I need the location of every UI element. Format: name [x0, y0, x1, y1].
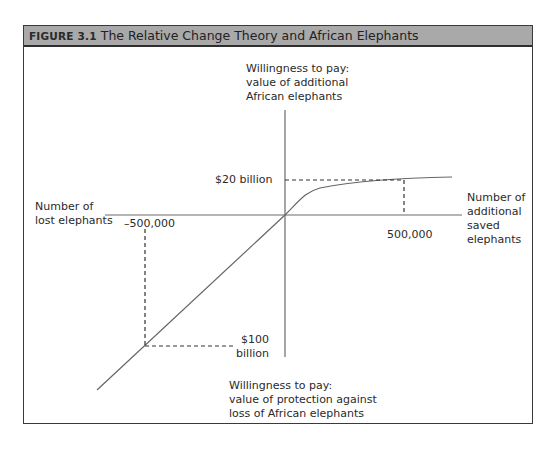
x-positive-label: Number of additional saved elephants	[467, 191, 525, 247]
wtp-curve	[97, 177, 452, 390]
x-positive-label-line: elephants	[467, 233, 525, 247]
y-positive-label-line: Willingness to pay:	[246, 62, 349, 76]
y-positive-label-line: value of additional	[246, 76, 349, 90]
y-negative-label-line: loss of African elephants	[229, 407, 377, 421]
x-negative-label-line: lost elephants	[35, 214, 113, 228]
y-negative-label-line: value of protection against	[229, 393, 377, 407]
y-negative-label: Willingness to pay: value of protection …	[229, 379, 377, 421]
y-pos-value-label: $20 billion	[215, 173, 272, 187]
x-positive-label-line: saved	[467, 219, 525, 233]
y-negative-label-line: Willingness to pay:	[229, 379, 377, 393]
y-positive-label-line: African elephants	[246, 90, 349, 104]
x-negative-label-line: Number of	[35, 200, 113, 214]
y-positive-label: Willingness to pay: value of additional …	[246, 62, 349, 104]
x-neg-tick-label: –500,000	[124, 217, 175, 231]
x-pos-tick-label: 500,000	[387, 228, 433, 242]
x-positive-label-line: additional	[467, 205, 525, 219]
y-neg-value-label: $100 billion	[239, 333, 269, 361]
y-neg-value-line: $100	[241, 333, 269, 347]
x-negative-label: Number of lost elephants	[35, 200, 113, 228]
y-neg-value-line: billion	[236, 347, 269, 361]
x-positive-label-line: Number of	[467, 191, 525, 205]
